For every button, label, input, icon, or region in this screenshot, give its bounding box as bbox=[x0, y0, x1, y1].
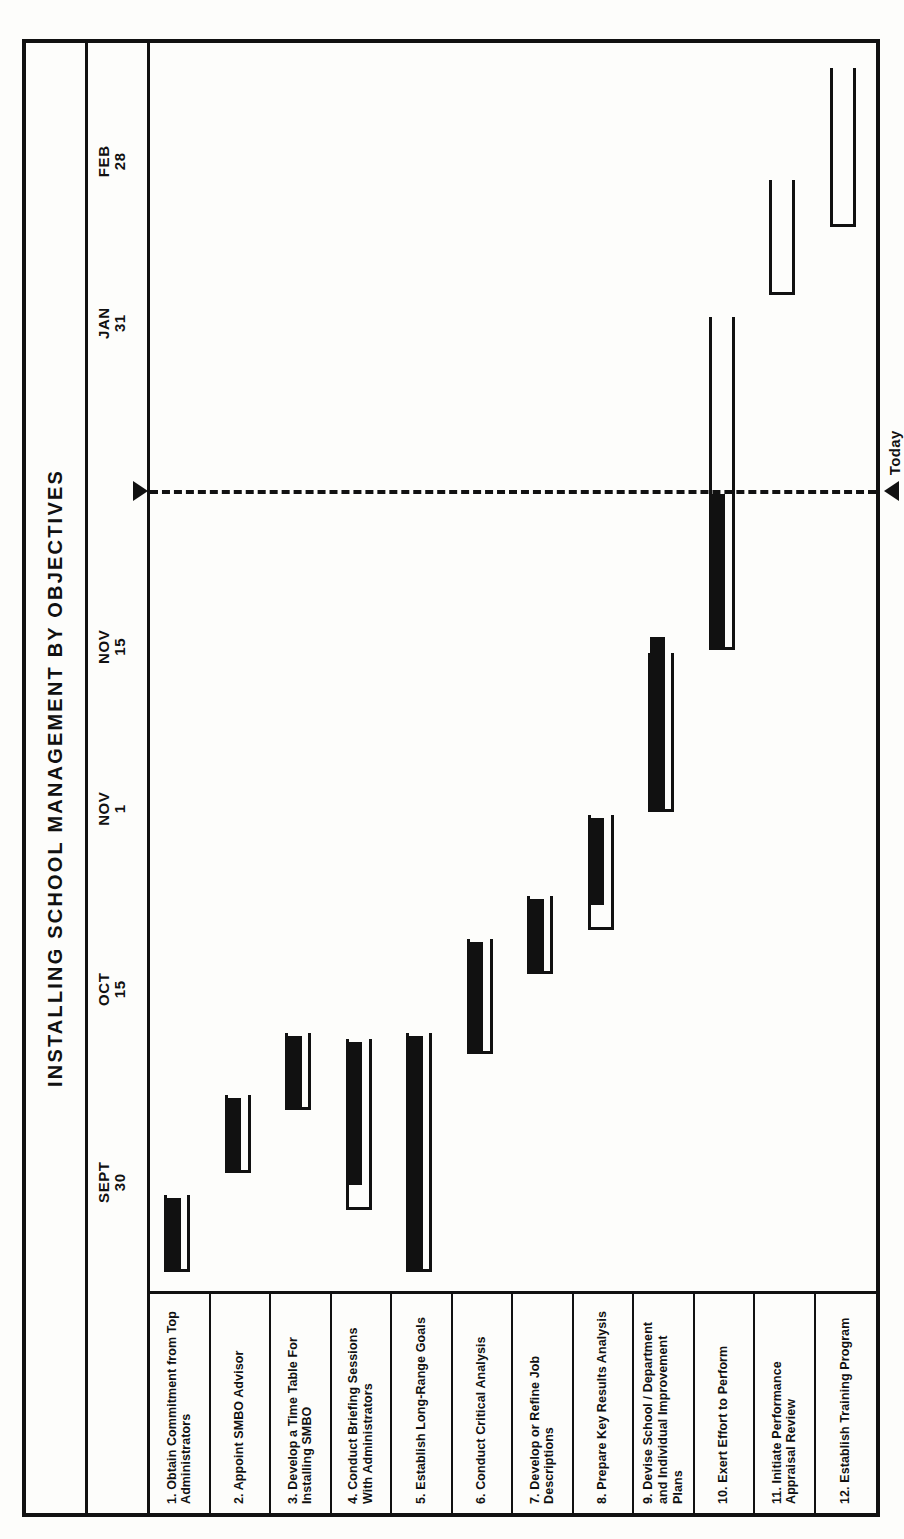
page-title: INSTALLING SCHOOL MANAGEMENT BY OBJECTIV… bbox=[44, 469, 67, 1087]
gantt-plot-area bbox=[150, 43, 876, 1291]
date-tick-4: NOV15 bbox=[96, 630, 128, 664]
accomplishment-bar[interactable] bbox=[408, 1036, 423, 1273]
today-line bbox=[150, 490, 876, 494]
accomplishment-bar[interactable] bbox=[227, 1098, 242, 1173]
today-marker-label: Today bbox=[886, 430, 903, 475]
task-label-text: 6. Conduct Critical Analysis bbox=[474, 1329, 489, 1513]
date-tick-6: FEB28 bbox=[96, 145, 128, 177]
rotated-chart-wrapper: INSTALLING SCHOOL MANAGEMENT BY OBJECTIV… bbox=[0, 0, 904, 1539]
task-label-column: 1. Obtain Commitment from Top Administra… bbox=[150, 1291, 876, 1513]
task-label-text: 7. Develop or Refine Job Descriptions bbox=[528, 1294, 558, 1513]
date-tick-2: OCT15 bbox=[96, 972, 128, 1005]
task-label-cell[interactable]: 11. Initiate Performance Appraisal Revie… bbox=[755, 1294, 816, 1513]
date-tick-month: NOV bbox=[95, 630, 112, 664]
date-tick-month: JAN bbox=[95, 307, 112, 339]
accomplishment-bar[interactable] bbox=[711, 494, 726, 650]
accomplishment-bar[interactable] bbox=[166, 1198, 181, 1273]
task-label-text: 12. Establish Training Program bbox=[838, 1311, 853, 1513]
date-tick-day: 28 bbox=[112, 145, 128, 177]
task-label-text: 4. Conduct Briefing Sessions With Admini… bbox=[346, 1294, 376, 1513]
date-tick-5: JAN31 bbox=[96, 307, 128, 339]
task-label-text: 8. Prepare Key Results Analysis bbox=[595, 1304, 610, 1513]
title-band: INSTALLING SCHOOL MANAGEMENT BY OBJECTIV… bbox=[26, 43, 88, 1513]
date-tick-day: 31 bbox=[112, 307, 128, 339]
accomplishment-bar[interactable] bbox=[590, 818, 605, 905]
task-label-text: 1. Obtain Commitment from Top Administra… bbox=[165, 1294, 195, 1513]
task-label-cell[interactable]: 4. Conduct Briefing Sessions With Admini… bbox=[332, 1294, 393, 1513]
chart-frame: INSTALLING SCHOOL MANAGEMENT BY OBJECTIV… bbox=[22, 39, 880, 1517]
task-label-text: 9. Devise School / Department and Indivi… bbox=[641, 1294, 685, 1513]
task-label-cell[interactable]: 7. Develop or Refine Job Descriptions bbox=[513, 1294, 574, 1513]
accomplishment-bar[interactable] bbox=[529, 899, 544, 974]
task-label-cell[interactable]: 9. Devise School / Department and Indivi… bbox=[634, 1294, 695, 1513]
date-tick-day: 15 bbox=[112, 972, 128, 1005]
date-tick-month: FEB bbox=[95, 145, 112, 177]
task-label-cell[interactable]: 2. Appoint SMBO Advisor bbox=[211, 1294, 272, 1513]
task-label-cell[interactable]: 3. Develop a Time Table For Installing S… bbox=[271, 1294, 332, 1513]
accomplishment-bar[interactable] bbox=[348, 1042, 363, 1185]
date-tick-month: OCT bbox=[95, 972, 112, 1005]
task-label-cell[interactable]: 1. Obtain Commitment from Top Administra… bbox=[150, 1294, 211, 1513]
accomplishment-bar[interactable] bbox=[287, 1036, 302, 1111]
date-tick-day: 1 bbox=[112, 792, 128, 826]
task-label-text: 11. Initiate Performance Appraisal Revie… bbox=[770, 1294, 800, 1513]
task-label-cell[interactable]: 6. Conduct Critical Analysis bbox=[453, 1294, 514, 1513]
task-label-cell[interactable]: 5. Establish Long-Range Goals bbox=[392, 1294, 453, 1513]
today-arrow-top-icon bbox=[133, 481, 148, 501]
date-tick-day: 15 bbox=[112, 630, 128, 664]
date-tick-1: SEPT30 bbox=[96, 1161, 128, 1203]
accomplishment-bar[interactable] bbox=[469, 942, 484, 1054]
task-label-cell[interactable]: 8. Prepare Key Results Analysis bbox=[574, 1294, 635, 1513]
task-label-text: 10. Exert Effort to Perform bbox=[716, 1339, 731, 1513]
task-label-text: 3. Develop a Time Table For Installing S… bbox=[286, 1294, 316, 1513]
task-label-cell[interactable]: 10. Exert Effort to Perform bbox=[695, 1294, 756, 1513]
plan-bar[interactable] bbox=[769, 183, 795, 295]
date-tick-day: 30 bbox=[112, 1161, 128, 1203]
accomplishment-bar[interactable] bbox=[650, 637, 665, 811]
plan-bar[interactable] bbox=[830, 71, 856, 227]
today-arrow-bottom-icon bbox=[884, 481, 899, 501]
task-label-text: 5. Establish Long-Range Goals bbox=[414, 1310, 429, 1513]
task-label-cell[interactable]: 12. Establish Training Program bbox=[816, 1294, 877, 1513]
date-tick-month: NOV bbox=[95, 792, 112, 826]
date-tick-3: NOV1 bbox=[96, 792, 128, 826]
date-axis-header: SEPT30OCT15NOV1NOV15JAN31FEB28 bbox=[88, 43, 150, 1513]
date-tick-month: SEPT bbox=[95, 1161, 112, 1203]
task-label-text: 2. Appoint SMBO Advisor bbox=[232, 1344, 247, 1513]
scanned-page: INSTALLING SCHOOL MANAGEMENT BY OBJECTIV… bbox=[0, 0, 904, 1539]
chart-body: 1. Obtain Commitment from Top Administra… bbox=[150, 43, 876, 1513]
